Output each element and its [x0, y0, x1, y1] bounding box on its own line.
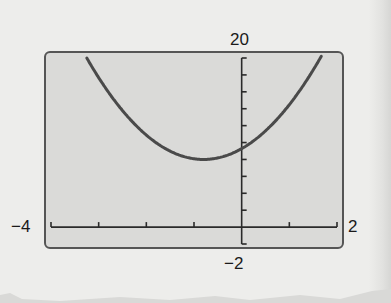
y-min-label: −2 [224, 255, 243, 272]
x-max-label: 2 [348, 218, 357, 235]
screen-frame [45, 52, 343, 248]
x-min-label: −4 [11, 218, 30, 235]
y-max-label: 20 [230, 31, 249, 48]
calculator-screen [0, 0, 391, 303]
